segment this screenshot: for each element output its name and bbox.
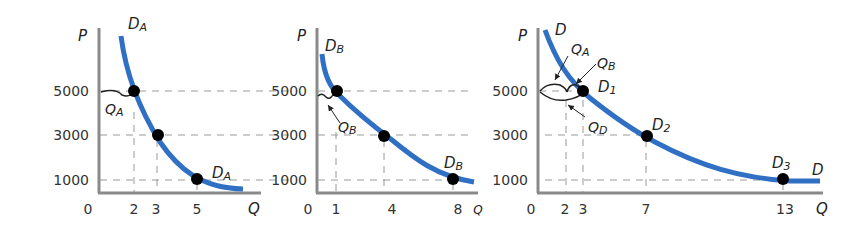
d-label-top: D [555, 21, 567, 39]
qd-arrow [568, 105, 585, 117]
y-tick-1000: 1000 [53, 172, 89, 188]
y-tick-3000: 3000 [271, 127, 307, 143]
x-tick-2: 2 [130, 201, 139, 217]
qb-brace [318, 93, 334, 98]
x-tick-4: 4 [388, 201, 397, 217]
point-q4-p3000 [378, 130, 390, 142]
point-q3-p3000 [152, 129, 164, 141]
y-tick-5000: 5000 [53, 83, 89, 99]
x-tick-0: 0 [304, 201, 313, 217]
point-d1 [577, 85, 589, 97]
y-tick-1000: 1000 [271, 172, 307, 188]
y-tick-3000: 3000 [53, 127, 89, 143]
da-label-top: DA [128, 15, 147, 34]
x-tick-3: 3 [579, 201, 588, 217]
q-axis-label: Q [816, 200, 828, 218]
d2-label: D2 [652, 116, 671, 135]
qb-label: QB [597, 55, 616, 73]
chart-panel-b: P DB DB QB 5000 3000 1000 0 1 4 8 Q [271, 27, 482, 217]
qb-label: QB [338, 119, 357, 137]
qb-arrow [576, 64, 596, 84]
q-axis-label: Q [248, 200, 260, 218]
qd-label: QD [588, 119, 608, 137]
y-tick-1000: 1000 [492, 172, 528, 188]
x-tick-13: 13 [776, 201, 794, 217]
demand-curve-a [121, 36, 243, 189]
y-tick-5000: 5000 [271, 83, 307, 99]
d1-label: D1 [598, 78, 617, 97]
q-axis-label: Q [473, 203, 482, 217]
db-label-top: DB [325, 37, 344, 56]
qa-label: QA [571, 41, 590, 59]
x-tick-0: 0 [84, 201, 93, 217]
qd-brace [540, 92, 583, 100]
x-tick-3: 3 [152, 201, 161, 217]
d3-label: D3 [772, 154, 791, 173]
x-tick-5: 5 [193, 201, 202, 217]
x-tick-1: 1 [332, 201, 341, 217]
x-tick-0: 0 [527, 201, 536, 217]
p-axis-label: P [518, 27, 528, 45]
x-tick-7: 7 [642, 201, 651, 217]
chart-panel-a: P DA DA QA 5000 3000 1000 0 2 3 5 Q [53, 15, 290, 218]
x-tick-2: 2 [561, 201, 570, 217]
d-label-bottom: D [812, 161, 824, 179]
point-q8-p1000 [447, 173, 459, 185]
p-axis-label: P [297, 27, 307, 45]
chart-panel-total: P D D QA QB QD D1 D2 D3 5000 3000 1000 0… [492, 21, 828, 218]
point-q5-p1000 [191, 173, 203, 185]
db-label-bottom: DB [444, 154, 463, 173]
point-d3 [777, 173, 789, 185]
y-tick-5000: 5000 [492, 83, 528, 99]
y-tick-3000: 3000 [492, 127, 528, 143]
point-q1-p5000 [331, 85, 343, 97]
p-axis-label: P [78, 27, 88, 45]
x-tick-8: 8 [454, 201, 463, 217]
da-label-bottom: DA [212, 164, 231, 183]
qa-label: QA [105, 101, 124, 119]
point-q2-p5000 [128, 85, 140, 97]
demand-charts: P DA DA QA 5000 3000 1000 0 2 3 5 Q P DB… [0, 0, 860, 235]
